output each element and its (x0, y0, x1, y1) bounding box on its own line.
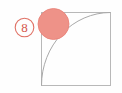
geometry-figure-container: 8 (0, 0, 122, 93)
shaded-circle (38, 9, 69, 40)
problem-number-badge-label: 8 (21, 20, 28, 35)
geometry-figure-svg: 8 (0, 0, 122, 93)
